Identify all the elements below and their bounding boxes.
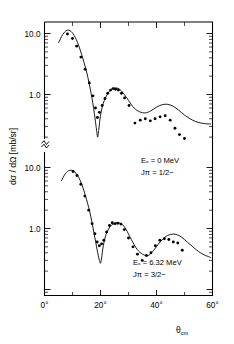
data-point [87,209,90,212]
x-tick-label-40: 40° [150,301,162,310]
data-point [71,37,74,40]
data-point [172,241,175,244]
theory-curve-upper-panel [59,30,212,137]
data-point [79,183,82,186]
x-tick-label-0: 0° [41,301,49,310]
annotation-lower-panel: Eₓ = 6.32 MeV Jπ = 3/2− [133,258,183,279]
data-point [98,111,101,114]
data-point [132,245,135,248]
data-point [109,89,112,92]
plot-frame [45,22,214,296]
data-point [167,238,170,241]
data-point [96,241,99,244]
annotation-spin-parity-lower: Jπ = 3/2− [133,270,166,279]
data-point [102,239,105,242]
data-point [174,127,177,130]
y-tick-label-upper-panel-1: 1.0 [29,91,41,100]
data-point [136,253,139,256]
data-point [79,56,82,59]
x-axis-tick-labels: 0°20°40°60° [41,301,219,310]
data-point [123,96,126,99]
data-point [178,133,181,136]
data-point [66,33,69,36]
theory-curve-lower-panel [61,170,211,263]
data-point [76,174,79,177]
y-axis-ticks-upper [45,34,213,138]
annotation-spin-parity-upper: Jπ = 1/2− [141,168,174,177]
figure-container: 0°20°40°60° 10.01.010.01.0 dσ / dΩ [mb/s… [0,0,234,344]
x-tick-label-60: 60° [206,301,218,310]
annotation-upper-panel: Eₓ = 0 MeV Jπ = 1/2− [141,156,180,177]
y-tick-label-upper-panel-0: 10.0 [25,30,41,39]
annotation-excitation-upper: Eₓ = 0 MeV [141,156,180,165]
x-axis-title: θcm [176,325,189,336]
data-point [93,232,96,235]
data-point [75,45,78,48]
data-point [104,97,107,100]
data-point [108,224,111,227]
data-points-lower-panel [72,170,184,262]
data-point [119,223,122,226]
y-tick-label-lower-panel-1: 1.0 [29,225,41,234]
data-point [105,230,108,233]
data-point [100,242,103,245]
data-point [106,92,109,95]
data-point [133,122,136,125]
data-point [96,116,99,119]
data-point [154,117,157,120]
data-point [149,119,152,122]
data-point [120,92,123,95]
y-axis-tick-labels: 10.01.010.01.0 [25,30,41,234]
data-point [154,244,157,247]
data-point [158,239,161,242]
data-point [163,237,166,240]
data-point [114,88,117,91]
data-point [83,195,86,198]
data-point [88,81,91,84]
data-point [111,221,114,224]
data-point [101,104,104,107]
data-point [128,104,131,107]
annotation-excitation-lower: Eₓ = 6.32 MeV [133,258,183,267]
data-point [145,254,148,257]
data-point [164,114,167,117]
data-point [94,107,97,110]
angular-distribution-plot: 0°20°40°60° 10.01.010.01.0 dσ / dΩ [mb/s… [0,0,234,344]
x-tick-label-20: 20° [94,301,106,310]
axis-break-marker [40,139,49,152]
data-point [123,228,126,231]
data-point [114,222,117,225]
y-tick-label-lower-panel-0: 10.0 [25,164,41,173]
data-point [116,222,119,225]
y-axis-title-text: dσ / dΩ [mb/sr] [8,128,18,185]
data-point [183,137,186,140]
data-point [117,89,120,92]
data-point [159,115,162,118]
x-axis-ticks [45,22,213,296]
data-point [149,251,152,254]
data-point [181,249,184,252]
data-point [176,241,179,244]
data-point [72,170,75,173]
data-point [98,244,101,247]
data-points-upper-panel [66,33,186,140]
x-axis-title-text: θcm [176,325,189,336]
data-point [139,119,142,122]
data-point [169,119,172,122]
data-point [91,94,94,97]
data-point [127,237,130,240]
data-point [144,117,147,120]
data-point [112,87,115,90]
data-point [91,222,94,225]
y-axis-title: dσ / dΩ [mb/sr] [8,128,18,185]
data-point [84,68,87,71]
y-axis-ticks-lower [45,168,213,293]
